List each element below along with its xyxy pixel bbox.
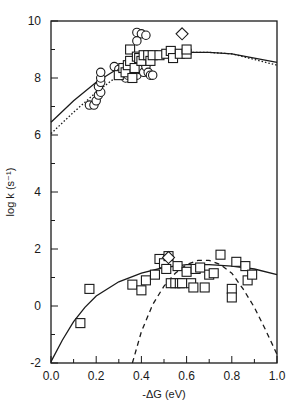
diamond-marker xyxy=(176,28,188,40)
square-marker xyxy=(162,264,171,273)
x-axis-title: -ΔG (eV) xyxy=(142,388,185,400)
circle-marker xyxy=(97,68,105,76)
y-tick-label: 4 xyxy=(34,185,41,199)
square-marker xyxy=(128,74,137,83)
square-marker xyxy=(232,257,241,266)
y-tick-label: 2 xyxy=(34,242,41,256)
y-tick-label: 8 xyxy=(34,71,41,85)
x-tick-label: 0.6 xyxy=(178,369,195,383)
axis-ticks xyxy=(51,21,277,363)
circle-marker xyxy=(142,31,150,39)
square-marker xyxy=(137,286,146,295)
square-marker xyxy=(182,267,191,276)
data-points xyxy=(76,28,257,328)
square-marker xyxy=(141,276,150,285)
y-tick-label: -2 xyxy=(30,356,41,370)
x-tick-label: 0.0 xyxy=(43,369,60,383)
x-tick-labels: 0.00.20.40.60.81.0 xyxy=(43,369,286,383)
fit-curves xyxy=(51,52,277,363)
square-marker xyxy=(200,283,209,292)
square-marker xyxy=(209,269,218,278)
square-marker xyxy=(85,284,94,293)
square-marker xyxy=(178,279,187,288)
square-marker xyxy=(76,319,85,328)
y-tick-label: 10 xyxy=(28,14,42,28)
x-tick-label: 0.2 xyxy=(88,369,105,383)
square-marker xyxy=(173,262,182,271)
fit-curve-dotted xyxy=(51,52,277,133)
square-marker xyxy=(227,293,236,302)
square-marker xyxy=(182,45,191,54)
square-marker xyxy=(196,263,205,272)
y-tick-label: 0 xyxy=(34,299,41,313)
y-tick-label: 6 xyxy=(34,128,41,142)
circle-marker xyxy=(149,71,157,79)
square-marker xyxy=(189,283,198,292)
square-marker xyxy=(216,250,225,259)
x-tick-label: 1.0 xyxy=(269,369,286,383)
circle-marker xyxy=(133,37,141,45)
plot-frame xyxy=(51,21,277,363)
square-marker xyxy=(227,284,236,293)
square-marker xyxy=(128,280,137,289)
chart: 0.00.20.40.60.81.0 -20246810 -ΔG (eV) lo… xyxy=(0,0,300,408)
fit-curve-solid xyxy=(51,52,277,122)
square-marker xyxy=(248,270,257,279)
y-axis-title: log k (s⁻¹) xyxy=(4,168,16,217)
y-tick-labels: -20246810 xyxy=(28,14,42,370)
square-marker xyxy=(150,270,159,279)
x-tick-label: 0.4 xyxy=(133,369,150,383)
square-marker xyxy=(241,262,250,271)
x-tick-label: 0.8 xyxy=(223,369,240,383)
